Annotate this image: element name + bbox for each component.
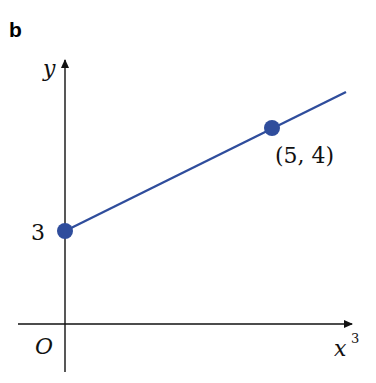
y-intercept-label: 3	[31, 220, 45, 245]
y-axis-label: y	[42, 56, 56, 81]
graph: y O x 3 3 (5, 4)	[0, 0, 376, 383]
point-5-4	[264, 120, 280, 136]
x-axis-superscript: 3	[351, 331, 359, 346]
point-0-3	[57, 223, 73, 239]
x-axis-label: x	[334, 336, 347, 361]
point-label-5-4: (5, 4)	[275, 143, 334, 168]
origin-label: O	[35, 334, 53, 359]
